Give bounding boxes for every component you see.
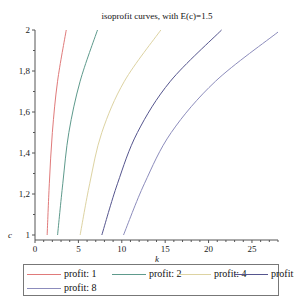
curve-profit-8 [124, 32, 278, 235]
curve-profit-1 [47, 30, 66, 235]
curves [47, 30, 278, 235]
y-axis-label: c [8, 230, 12, 240]
legend-label: profit: 8 [64, 282, 97, 293]
y-tick-label: 1,6 [19, 107, 31, 117]
y-tick-label: 1 [26, 230, 31, 240]
legend-item-profit-6: profit: 6 [234, 267, 294, 281]
legend-swatch [177, 274, 211, 275]
axes: 051015202511,21,41,61,82kc [8, 25, 278, 262]
curve-profit-6 [102, 30, 222, 235]
y-tick-label: 1,2 [19, 189, 30, 199]
x-tick-label: 15 [161, 244, 171, 254]
legend-label: profit: 6 [271, 268, 294, 279]
legend: profit: 1 profit: 2 profit: 4 profit: 6 … [23, 264, 279, 296]
legend-item-profit-1: profit: 1 [27, 267, 97, 281]
curve-profit-4 [80, 30, 161, 235]
y-tick-label: 2 [26, 25, 31, 35]
legend-swatch [112, 274, 146, 275]
x-tick-label: 20 [204, 244, 214, 254]
legend-swatch [234, 274, 268, 275]
x-tick-label: 25 [247, 244, 257, 254]
legend-item-profit-2: profit: 2 [112, 267, 182, 281]
chart-title: isoprofit curves, with E(c)=1.5 [102, 11, 213, 21]
curve-profit-2 [58, 30, 98, 235]
isoprofit-chart: isoprofit curves, with E(c)=1.5 05101520… [0, 0, 294, 262]
legend-label: profit: 1 [64, 268, 97, 279]
x-axis-label: k [155, 254, 160, 262]
y-tick-label: 1,8 [19, 66, 31, 76]
x-tick-label: 10 [117, 244, 127, 254]
legend-swatch [27, 274, 61, 275]
x-tick-label: 5 [76, 244, 81, 254]
y-tick-label: 1,4 [19, 148, 31, 158]
legend-item-profit-8: profit: 8 [27, 281, 97, 295]
x-tick-label: 0 [33, 244, 38, 254]
legend-swatch [27, 288, 61, 289]
